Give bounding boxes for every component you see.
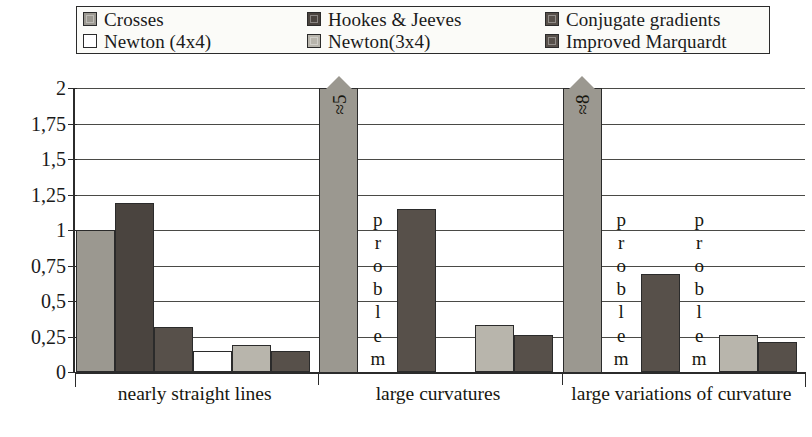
y-axis-label: 1,75 (0, 114, 66, 134)
problem-annotation-letter: e (695, 324, 703, 347)
y-axis-tick (68, 88, 77, 89)
y-axis-label: 0,75 (0, 256, 66, 276)
y-axis-tick (68, 124, 77, 125)
problem-annotation-letter: l (697, 300, 702, 323)
y-axis-label: 1 (0, 220, 66, 240)
bar: ≈5 (319, 88, 358, 372)
bar-chart: 00,250,50,7511,251,51,752 ≈5problem≈8pro… (0, 0, 812, 437)
problem-annotation-letter: l (619, 300, 624, 323)
problem-annotation-letter: b (694, 277, 704, 300)
y-axis-label: 1,5 (0, 149, 66, 169)
problem-annotation-letter: p (694, 208, 704, 231)
problem-annotation-letter: r (696, 231, 702, 254)
bar (475, 325, 514, 372)
bar-overflow-arrow-icon (569, 76, 595, 89)
bar (719, 335, 758, 372)
gridline (75, 124, 805, 125)
problem-annotation-letter: b (616, 277, 626, 300)
gridline (75, 372, 805, 374)
gridline (75, 159, 805, 160)
gridline (75, 230, 805, 231)
gridline (75, 88, 805, 89)
y-axis-label: 2 (0, 78, 66, 98)
bar (193, 351, 232, 372)
problem-annotation-letter: l (375, 300, 380, 323)
bar (271, 351, 310, 372)
problem-annotation: problem (602, 208, 641, 370)
bar-overflow-arrow-icon (326, 76, 352, 89)
problem-annotation-letter: b (373, 277, 383, 300)
problem-annotation-letter: r (618, 231, 624, 254)
problem-annotation-letter: m (692, 347, 707, 370)
bar (397, 209, 436, 372)
y-axis-tick (68, 159, 77, 160)
y-axis-label: 0,5 (0, 291, 66, 311)
y-axis-label: 0,25 (0, 327, 66, 347)
bar: ≈8 (563, 88, 602, 372)
bar (154, 327, 193, 372)
problem-annotation-letter: e (374, 324, 382, 347)
bar (514, 335, 553, 372)
problem-annotation-letter: r (375, 231, 381, 254)
problem-annotation-letter: m (370, 347, 385, 370)
x-axis-label: large variations of curvature (560, 382, 803, 406)
x-axis-label: nearly straight lines (73, 382, 316, 406)
x-axis-label: large curvatures (316, 382, 559, 406)
bar-overflow-value-label: ≈5 (329, 95, 348, 115)
gridline (75, 301, 805, 302)
bar (76, 230, 115, 372)
problem-annotation-letter: e (617, 324, 625, 347)
problem-annotation: problem (680, 208, 719, 370)
bar (115, 203, 154, 372)
y-axis-label: 0 (0, 362, 66, 382)
y-axis-tick (68, 195, 77, 196)
y-axis: 00,250,50,7511,251,51,752 (0, 0, 66, 437)
bar (641, 274, 680, 372)
plot-area: ≈5problem≈8problemproblem (73, 88, 805, 372)
y-axis-label: 1,25 (0, 185, 66, 205)
bar (232, 345, 271, 372)
problem-annotation: problem (358, 208, 397, 370)
problem-annotation-letter: m (614, 347, 629, 370)
gridline (75, 195, 805, 196)
x-axis-group-separator (805, 372, 806, 387)
problem-annotation-letter: p (616, 208, 626, 231)
gridline (75, 266, 805, 267)
bar-overflow-value-label: ≈8 (573, 95, 592, 115)
bar (758, 342, 797, 372)
problem-annotation-letter: p (373, 208, 383, 231)
